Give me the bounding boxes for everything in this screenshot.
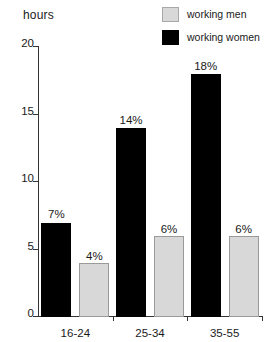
bar-value-label: 14%: [119, 115, 142, 127]
bar-value-label: 6%: [235, 224, 252, 236]
x-axis-tick-mark: [113, 316, 114, 321]
plot-area: 05101520 7%4%14%6%18%6% 16-2425-3435-55: [38, 46, 263, 317]
bar-value-label: 6%: [161, 224, 178, 236]
y-axis-tick-label: 15: [21, 106, 34, 118]
bar-chart: hours working men working women 05101520…: [0, 0, 265, 342]
x-axis-category-label: 25-34: [135, 328, 164, 340]
chart-legend: working men working women: [162, 5, 265, 51]
x-axis-tick-mark: [262, 316, 263, 321]
y-axis-unit-label: hours: [23, 8, 54, 22]
y-axis-tick-label: 10: [21, 173, 34, 185]
bar-value-label: 18%: [194, 61, 217, 73]
bar-working-women-16-24: 7%: [41, 223, 71, 318]
legend-label-working-men: working men: [187, 9, 247, 20]
y-axis-line: [38, 46, 39, 316]
legend-item-working-men: working men: [162, 5, 265, 24]
x-axis-category-label: 35-55: [210, 328, 239, 340]
y-axis-tick-label: 0: [28, 308, 34, 320]
x-axis-tick-mark: [187, 316, 188, 321]
bar-working-men-25-34: 6%: [154, 236, 184, 317]
bar-value-label: 7%: [48, 209, 65, 221]
x-axis-category-label: 16-24: [61, 328, 90, 340]
bar-working-women-35-55: 18%: [191, 74, 221, 317]
bar-value-label: 4%: [86, 251, 103, 263]
bar-working-men-35-55: 6%: [229, 236, 259, 317]
y-axis-tick-label: 20: [21, 38, 34, 50]
y-axis-tick-label: 5: [28, 241, 34, 253]
legend-label-working-women: working women: [187, 32, 260, 43]
bar-working-men-16-24: 4%: [79, 263, 109, 317]
legend-swatch-icon-working-women: [162, 30, 179, 45]
bar-working-women-25-34: 14%: [116, 128, 146, 317]
legend-item-working-women: working women: [162, 28, 265, 47]
legend-swatch-icon-working-men: [162, 7, 179, 22]
